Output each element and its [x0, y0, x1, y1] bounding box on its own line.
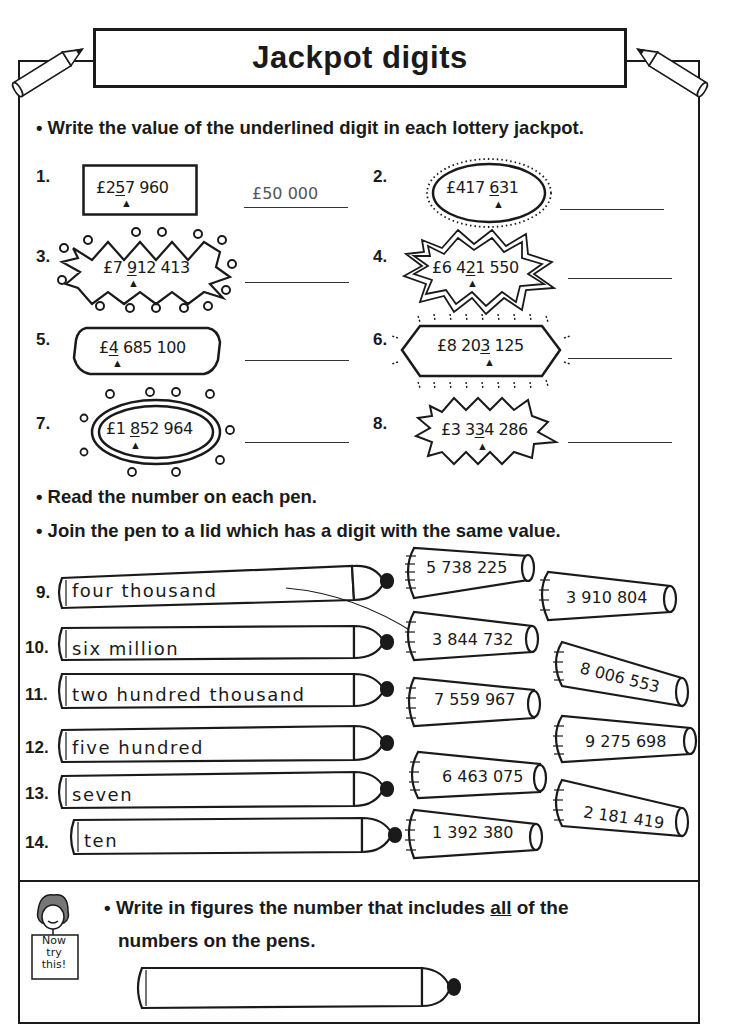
jackpot-amount: £8 203 125	[437, 336, 524, 355]
arrow-up-icon: ▲	[121, 198, 132, 209]
section-divider	[18, 880, 700, 882]
answer-pen-input[interactable]	[160, 976, 410, 1000]
pen-label[interactable]: five hundred	[72, 737, 204, 758]
jackpot-amount: £3 334 286	[441, 420, 528, 439]
pencil-icon	[626, 40, 716, 100]
pen-label[interactable]: four thousand	[72, 580, 218, 601]
lid-number[interactable]: 6 463 075	[442, 767, 523, 786]
underlined-digit: 2	[466, 258, 476, 277]
lid-number[interactable]: 9 275 698	[585, 732, 666, 751]
underlined-digit: 4	[109, 338, 119, 357]
arrow-up-icon: ▲	[493, 199, 504, 210]
pen-label[interactable]: ten	[84, 830, 118, 851]
answer-value: £50 000	[252, 184, 318, 203]
question-number: 4.	[373, 247, 387, 267]
lid-number[interactable]: 3 910 804	[566, 588, 647, 607]
lid-number[interactable]: 5 738 225	[426, 558, 507, 577]
jackpot-amount: £6 421 550	[432, 258, 519, 277]
underlined-digit: 3	[475, 420, 485, 439]
arrow-up-icon: ▲	[467, 278, 478, 289]
pen-number: 13.	[25, 784, 49, 804]
question-number: 3.	[36, 247, 50, 267]
page-title-box: Jackpot digits	[93, 28, 627, 88]
answer-line[interactable]	[568, 358, 672, 359]
answer-line[interactable]	[560, 209, 664, 210]
jackpot-amount: £257 960	[96, 178, 168, 197]
pen-number: 12.	[25, 738, 49, 758]
answer-line[interactable]	[568, 442, 672, 443]
underlined-digit: 6	[489, 178, 499, 197]
question-number: 7.	[36, 414, 50, 434]
jackpot-amount: £4 685 100	[99, 338, 186, 357]
instruction-write-figures: • Write in figures the number that inclu…	[104, 897, 568, 919]
instruction-join-pens: • Join the pen to a lid which has a digi…	[36, 520, 561, 542]
pen-label[interactable]: two hundred thousand	[72, 684, 306, 705]
instruction-read-pens: • Read the number on each pen.	[36, 486, 317, 508]
pen-number: 11.	[25, 685, 48, 705]
instruction-jackpot: • Write the value of the underlined digi…	[36, 117, 584, 139]
question-number: 1.	[36, 167, 50, 187]
pen-label[interactable]: six million	[72, 638, 179, 659]
pen-number: 10.	[25, 638, 49, 658]
question-number: 6.	[373, 330, 387, 350]
pen-number: 14.	[25, 833, 49, 853]
arrow-up-icon: ▲	[484, 357, 495, 368]
answer-line[interactable]	[245, 442, 349, 443]
underlined-digit: 9	[127, 258, 137, 277]
page-title: Jackpot digits	[252, 40, 467, 76]
pens-drawing	[54, 556, 404, 876]
jackpot-amount: £417 631	[446, 178, 518, 197]
pencil-icon	[4, 40, 94, 100]
answer-line[interactable]	[244, 207, 348, 208]
pen-label[interactable]: seven	[72, 784, 133, 805]
answer-line[interactable]	[245, 282, 349, 283]
pen-number: 9.	[36, 583, 50, 603]
lid-number[interactable]: 7 559 967	[434, 690, 515, 709]
arrow-up-icon: ▲	[128, 278, 139, 289]
question-number: 2.	[373, 167, 387, 187]
jackpot-amount: £7 912 413	[103, 258, 190, 277]
now-try-this-badge: Nowtrythis!	[33, 935, 75, 971]
instruction-write-figures-cont: numbers on the pens.	[118, 930, 315, 952]
jackpot-amount: £1 852 964	[106, 419, 193, 438]
underlined-digit: 8	[130, 419, 140, 438]
lid-number[interactable]: 1 392 380	[432, 823, 513, 842]
arrow-up-icon: ▲	[130, 440, 141, 451]
answer-line[interactable]	[245, 360, 349, 361]
arrow-up-icon: ▲	[477, 441, 488, 452]
underlined-digit: 5	[115, 178, 125, 197]
question-number: 8.	[373, 414, 387, 434]
underlined-digit: 3	[480, 336, 490, 355]
question-number: 5.	[36, 330, 50, 350]
answer-line[interactable]	[568, 278, 672, 279]
arrow-up-icon: ▲	[112, 358, 123, 369]
lid-number[interactable]: 3 844 732	[432, 630, 513, 649]
